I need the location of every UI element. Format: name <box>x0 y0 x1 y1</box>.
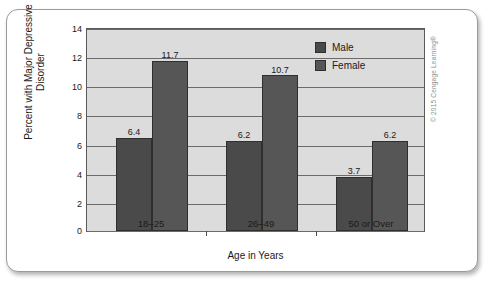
y-tick-label: 8 <box>77 111 82 121</box>
y-tick-label: 6 <box>77 141 82 151</box>
bar-value-male-50-or-over: 3.7 <box>336 166 372 176</box>
figure-card: Percent with Major Depressive Disorder 1… <box>6 9 478 272</box>
legend-label-male: Male <box>332 42 354 53</box>
legend-swatch-male-icon <box>315 42 326 53</box>
y-tick-label: 2 <box>77 199 82 209</box>
y-axis-title-line2: Disorder <box>35 0 47 162</box>
legend-item-male: Male <box>315 42 365 53</box>
bar-value-male-26-49: 6.2 <box>226 130 262 140</box>
gridline: 14 <box>87 29 424 30</box>
x-tick-mark <box>316 231 317 236</box>
bar-value-female-50-or-over: 6.2 <box>372 130 408 140</box>
gridline: 10 <box>87 87 424 88</box>
x-tick-label-50-or-over: 50 or Over <box>349 218 394 229</box>
y-tick-label: 0 <box>77 226 82 236</box>
gridline: 12 <box>87 58 424 59</box>
legend-label-female: Female <box>332 60 365 71</box>
y-tick-label: 12 <box>72 53 82 63</box>
x-axis-title: Age in Years <box>86 250 425 261</box>
bar-chart-figure: Percent with Major Depressive Disorder 1… <box>7 10 479 273</box>
y-axis-title-line1: Percent with Major Depressive <box>23 0 35 162</box>
legend-swatch-female-icon <box>315 60 326 71</box>
y-tick-label: 4 <box>77 170 82 180</box>
bar-female-18-25 <box>152 61 188 231</box>
gridline: 8 <box>87 116 424 117</box>
plot-area: 14 12 10 8 6 4 2 0 <box>86 28 425 232</box>
bar-female-26-49 <box>262 75 298 231</box>
bar-value-female-26-49: 10.7 <box>262 65 298 75</box>
y-tick-label: 14 <box>72 24 82 34</box>
y-axis-title: Percent with Major Depressive Disorder <box>23 0 47 162</box>
x-tick-mark <box>206 231 207 236</box>
bar-value-female-18-25: 11.7 <box>152 50 188 60</box>
bar-value-male-18-25: 6.4 <box>116 127 152 137</box>
x-tick-label-18-25: 18–25 <box>138 218 164 229</box>
copyright-notice: © 2015 Cengage Learning® <box>430 36 437 122</box>
gridline: 0 <box>87 231 424 232</box>
legend-item-female: Female <box>315 60 365 71</box>
y-tick-label: 10 <box>72 82 82 92</box>
x-tick-label-26-49: 26–49 <box>248 218 274 229</box>
legend: Male Female <box>315 42 365 71</box>
